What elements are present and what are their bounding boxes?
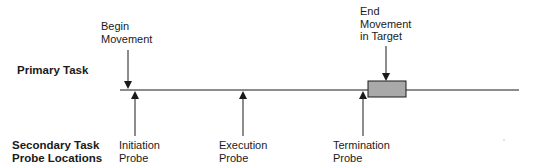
execution-probe-label: Execution Probe — [219, 139, 267, 164]
secondary-task-line1: Secondary Task — [12, 139, 102, 152]
end-movement-label: End Movement in Target — [360, 5, 411, 43]
secondary-task-label: Secondary Task Probe Locations — [12, 139, 102, 164]
execution-probe-arrow-icon — [239, 91, 247, 136]
begin-movement-arrow-icon — [124, 50, 132, 89]
initiation-probe-label: Initiation Probe — [119, 139, 160, 164]
termination-probe-label: Termination Probe — [333, 139, 390, 164]
primary-task-label: Primary Task — [17, 64, 88, 77]
secondary-task-line2: Probe Locations — [12, 152, 102, 165]
begin-movement-label: Begin Movement — [101, 20, 152, 45]
end-movement-arrow-icon — [382, 46, 390, 81]
termination-probe-arrow-icon — [359, 91, 367, 136]
initiation-probe-arrow-icon — [131, 91, 139, 136]
target-zone-box — [368, 81, 406, 97]
